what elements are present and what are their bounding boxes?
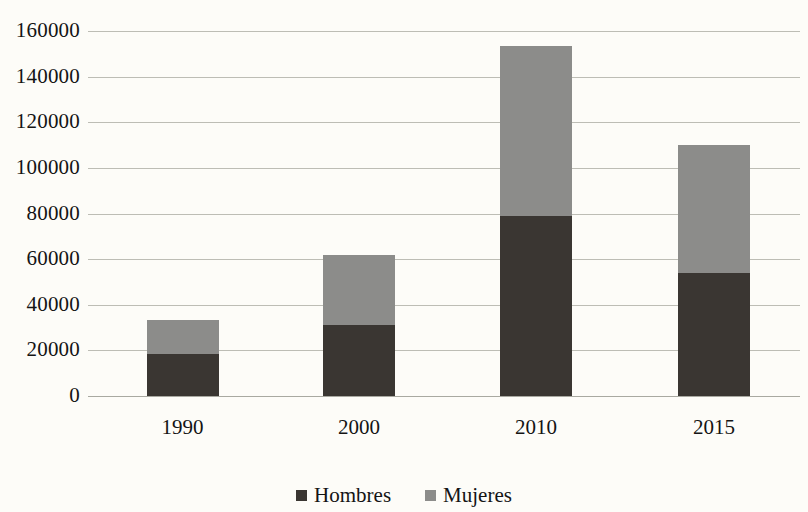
bar-segment-mujeres (678, 145, 750, 273)
bar-segment-mujeres (147, 320, 219, 354)
gridline (88, 122, 800, 123)
bar-group (678, 145, 750, 396)
bar-segment-hombres (147, 354, 219, 396)
y-axis-tick-label: 100000 (2, 157, 80, 178)
x-axis-tick-label: 2000 (299, 416, 419, 438)
y-axis-tick-label: 160000 (2, 20, 80, 41)
y-axis-tick-label: 140000 (2, 66, 80, 87)
gridline (88, 31, 800, 32)
chart-legend: HombresMujeres (0, 478, 808, 512)
x-axis: 1990200020102015 (88, 400, 800, 440)
bar-group (147, 320, 219, 396)
legend-swatch-icon (296, 490, 307, 501)
bar-group (323, 255, 395, 396)
bar-segment-mujeres (323, 255, 395, 326)
bar-segment-hombres (323, 325, 395, 396)
y-axis-tick-label: 60000 (2, 248, 80, 269)
plot-area (88, 31, 800, 396)
bar-segment-mujeres (500, 46, 572, 216)
y-axis-tick-label: 0 (2, 385, 80, 406)
y-axis-tick-label: 80000 (2, 203, 80, 224)
y-axis-tick-label: 40000 (2, 294, 80, 315)
legend-label: Hombres (314, 484, 391, 506)
legend-label: Mujeres (443, 484, 512, 506)
axis-baseline (88, 396, 800, 397)
y-axis-tick-label: 120000 (2, 111, 80, 132)
legend-item-hombres[interactable]: Hombres (296, 484, 391, 506)
bar-segment-hombres (500, 216, 572, 396)
stacked-bar-chart: 1600001400001200001000008000060000400002… (0, 0, 808, 512)
legend-item-mujeres[interactable]: Mujeres (425, 484, 512, 506)
bar-segment-hombres (678, 273, 750, 396)
y-axis: 1600001400001200001000008000060000400002… (0, 31, 80, 396)
x-axis-tick-label: 2010 (476, 416, 596, 438)
legend-swatch-icon (425, 490, 436, 501)
x-axis-tick-label: 2015 (654, 416, 774, 438)
x-axis-tick-label: 1990 (123, 416, 243, 438)
y-axis-tick-label: 20000 (2, 339, 80, 360)
gridline (88, 77, 800, 78)
bar-group (500, 46, 572, 396)
